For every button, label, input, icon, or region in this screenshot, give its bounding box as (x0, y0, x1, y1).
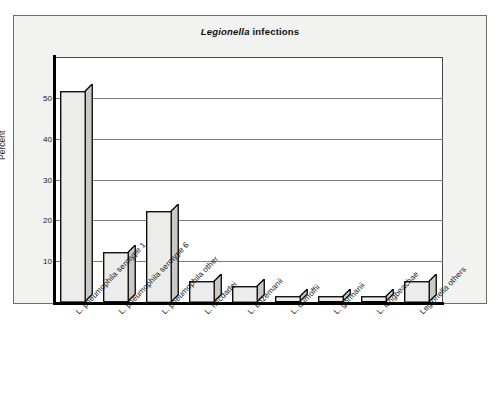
x-tick-label: L. pneumophila serotype 6 (117, 240, 191, 316)
chart-figure: Legionella infections 1020304050 Percent… (0, 0, 499, 416)
x-tick-label: L. pneumophila serotype 1 (74, 240, 148, 316)
x-tick-label: L. dumoffii (289, 283, 322, 316)
x-tick-label: L. gormanii (332, 281, 367, 317)
x-tick-label: L. bozemanii (246, 277, 285, 317)
x-axis-tick-labels: L. pneumophila serotype 1L. pneumophila … (0, 0, 499, 416)
x-tick-label: L. longbeachae (375, 270, 420, 317)
x-tick-label: L. micdadei (203, 280, 239, 316)
x-tick-label: Legionella others (418, 265, 468, 316)
